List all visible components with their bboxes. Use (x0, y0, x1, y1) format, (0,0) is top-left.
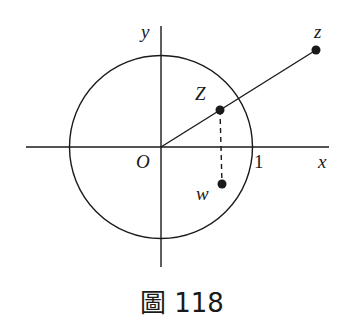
point-w-label: w (196, 183, 209, 204)
point-w (218, 180, 227, 189)
point-Z-label: Z (195, 83, 206, 104)
origin-label: O (136, 151, 150, 172)
diagram: y x O 1 z Z w 圖 118 (0, 0, 349, 335)
x-axis-label: x (317, 151, 327, 172)
figure-caption: 圖 118 (140, 288, 224, 318)
ray-o-to-z (161, 50, 316, 147)
y-axis-label: y (139, 21, 150, 42)
point-Z (216, 106, 225, 115)
unit-label: 1 (254, 151, 264, 172)
dashed-segment-Z-to-w (220, 110, 222, 184)
point-z (312, 46, 321, 55)
point-z-label: z (313, 21, 322, 42)
